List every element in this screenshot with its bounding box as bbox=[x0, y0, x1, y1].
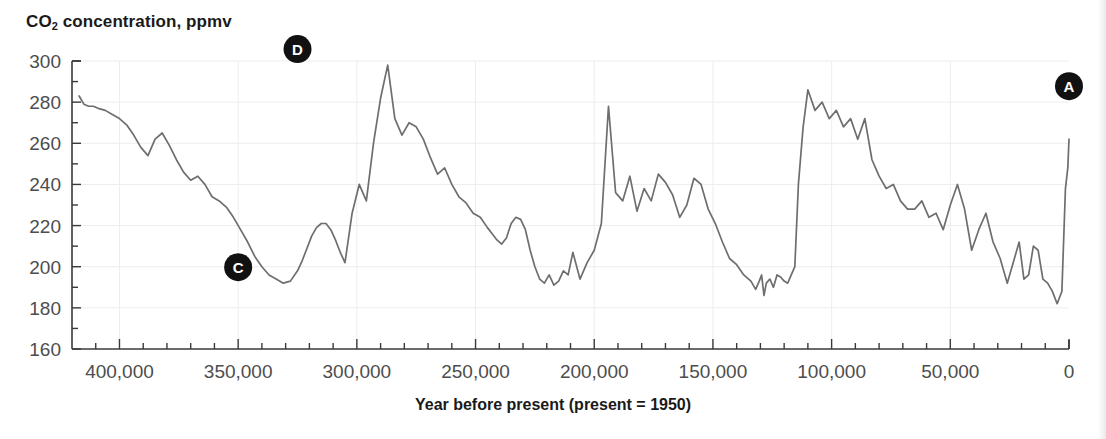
x-tick-label: 400,000 bbox=[85, 361, 154, 382]
x-axis-tick-labels: 400,000350,000300,000250,000200,000150,0… bbox=[85, 361, 1074, 382]
y-tick-label: 180 bbox=[29, 298, 61, 319]
y-tick-label: 160 bbox=[29, 339, 61, 360]
y-axis-tick-labels: 160180200220240260280300 bbox=[29, 51, 61, 360]
y-tick-label: 260 bbox=[29, 133, 61, 154]
y-tick-label: 240 bbox=[29, 174, 61, 195]
annotation-marker-a: A bbox=[1055, 72, 1083, 100]
y-tick-label: 300 bbox=[29, 51, 61, 72]
annotation-marker-d: D bbox=[284, 35, 312, 63]
y-axis-ticks bbox=[72, 61, 81, 349]
page-edge-shadow bbox=[1098, 0, 1106, 439]
axis-lines bbox=[72, 61, 1069, 349]
x-tick-label: 0 bbox=[1064, 361, 1075, 382]
y-tick-label: 220 bbox=[29, 216, 61, 237]
annotation-marker-c: C bbox=[224, 253, 252, 281]
x-tick-label: 350,000 bbox=[204, 361, 273, 382]
annotation-marker-label: A bbox=[1064, 78, 1075, 95]
annotation-marker-label: D bbox=[292, 41, 303, 58]
x-axis-title: Year before present (present = 1950) bbox=[0, 396, 1106, 414]
annotation-marker-label: C bbox=[233, 259, 244, 276]
annotation-markers: ACD bbox=[224, 35, 1083, 281]
chart-plot-svg: 160180200220240260280300 400,000350,0003… bbox=[0, 0, 1106, 439]
y-tick-label: 200 bbox=[29, 257, 61, 278]
grid-lines bbox=[72, 61, 1069, 349]
x-tick-label: 300,000 bbox=[323, 361, 392, 382]
co2-chart-figure: CO2 concentration, ppmv 1601802002202402… bbox=[0, 0, 1106, 439]
x-tick-label: 150,000 bbox=[679, 361, 748, 382]
x-tick-label: 250,000 bbox=[441, 361, 510, 382]
y-tick-label: 280 bbox=[29, 92, 61, 113]
x-tick-label: 100,000 bbox=[797, 361, 866, 382]
x-tick-label: 50,000 bbox=[921, 361, 979, 382]
x-tick-label: 200,000 bbox=[560, 361, 629, 382]
x-axis-ticks bbox=[96, 339, 1069, 349]
